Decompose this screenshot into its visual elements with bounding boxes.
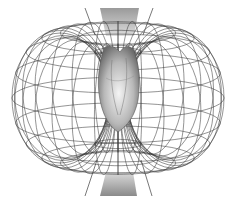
lower-conical-beam: [85, 160, 152, 196]
heart-torus-diagram: Heart electromagnetic field (toroidal): [0, 0, 235, 210]
diagram-canvas: [0, 0, 235, 210]
heart: [98, 46, 139, 132]
